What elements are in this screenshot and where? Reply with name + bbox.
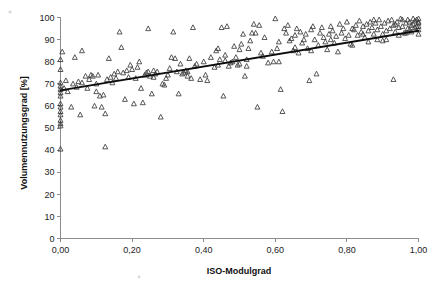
y-tick-label: 70 (44, 79, 54, 89)
x-axis-title: ISO-Modulgrad (207, 266, 272, 276)
scan-speck (8, 10, 11, 13)
y-tick-label: 20 (44, 190, 54, 200)
scatter-plot: 0102030405060708090100 0,000,200,400,600… (0, 0, 439, 285)
y-tick-label: 10 (44, 212, 54, 222)
y-axis-title: Volumennutzungsgrad [%] (19, 76, 29, 189)
y-tick-label: 60 (44, 101, 54, 111)
y-tick-label: 100 (39, 13, 54, 23)
chart-figure: 0102030405060708090100 0,000,200,400,600… (0, 0, 439, 285)
x-tick-label: 0,40 (195, 245, 213, 255)
y-tick-label: 0 (49, 234, 54, 244)
y-tick-label: 30 (44, 167, 54, 177)
y-tick-label: 90 (44, 35, 54, 45)
x-tick-label: 0,20 (123, 245, 141, 255)
y-tick-label: 40 (44, 145, 54, 155)
x-tick-label: 0,60 (267, 245, 285, 255)
x-tick-label: 0,00 (52, 245, 70, 255)
chart-background (0, 0, 439, 285)
y-tick-label: 50 (44, 123, 54, 133)
scan-speck (138, 276, 141, 279)
x-tick-label: 1,00 (410, 245, 428, 255)
x-tick-label: 0,80 (338, 245, 356, 255)
y-tick-label: 80 (44, 57, 54, 67)
